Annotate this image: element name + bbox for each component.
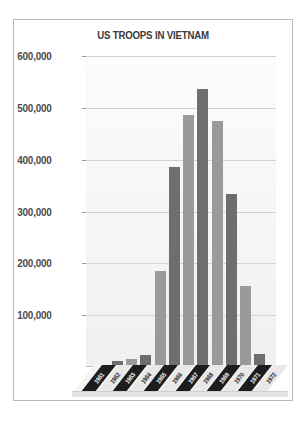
bar-1966 <box>169 167 180 367</box>
plot-area <box>86 56 276 367</box>
bar-1970 <box>226 194 237 367</box>
x-axis-label-text: 1972 <box>264 371 277 385</box>
chart-figure: US TROOPS IN VIETNAM 600,000500,000400,0… <box>13 19 293 401</box>
chart-title: US TROOPS IN VIETNAM <box>25 29 281 41</box>
y-axis-tick-label: 500,000 <box>0 102 52 114</box>
y-axis-tick-label: 300,000 <box>0 206 52 218</box>
bar-1968 <box>197 89 208 367</box>
x-axis-ribbon: 1961196219631964196519661967196819691970… <box>72 365 288 403</box>
ribbon-front-edge <box>72 391 288 397</box>
y-axis-tick-label: 400,000 <box>0 154 52 166</box>
bar-1971 <box>240 286 251 367</box>
bar-1967 <box>183 115 194 367</box>
bar-series <box>86 56 276 367</box>
y-axis-tick-label: 100,000 <box>0 309 52 321</box>
y-axis-tick-label: 200,000 <box>0 257 52 269</box>
bar-1969 <box>212 121 223 367</box>
bar-1965 <box>155 271 166 367</box>
y-axis-tick-label: 600,000 <box>0 50 52 62</box>
